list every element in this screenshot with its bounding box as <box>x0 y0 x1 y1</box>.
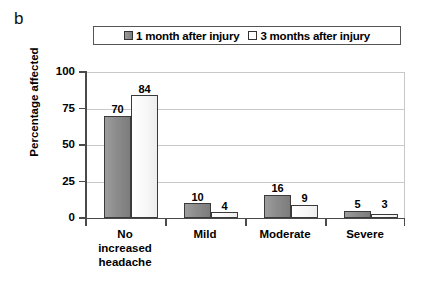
bar-no-increased-headache-3-months <box>131 95 158 218</box>
x-category-label-no-increased-headache: No increased headache <box>85 227 165 269</box>
legend-swatch-icon-white <box>248 31 257 40</box>
x-category-label-moderate: Moderate <box>245 227 325 241</box>
y-tick-50 <box>79 144 85 146</box>
y-tick-label-75: 75 <box>45 102 75 114</box>
legend-label-3-months: 3 months after injury <box>260 30 370 42</box>
y-axis-line <box>85 71 87 219</box>
bar-moderate-3-months <box>291 205 318 218</box>
bar-value-severe-3-months: 3 <box>369 198 400 210</box>
bar-no-increased-headache-1-month <box>104 116 131 218</box>
chart-legend: 1 month after injury 3 months after inju… <box>93 26 401 45</box>
y-tick-label-100: 100 <box>45 65 75 77</box>
y-tick-25 <box>79 181 85 183</box>
y-tick-100 <box>79 71 85 73</box>
y-tick-label-25: 25 <box>45 175 75 187</box>
x-tick-1 <box>165 219 167 226</box>
x-tick-3 <box>325 219 327 226</box>
bar-mild-1-month <box>184 203 211 218</box>
bar-severe-1-month <box>344 211 371 218</box>
y-tick-label-0: 0 <box>45 211 75 223</box>
bar-moderate-1-month <box>264 195 291 218</box>
legend-entry-1-month: 1 month after injury <box>124 30 239 42</box>
bar-value-no-increased-headache-3-months: 84 <box>129 83 160 95</box>
bar-value-moderate-3-months: 9 <box>289 192 320 204</box>
legend-label-1-month: 1 month after injury <box>136 30 239 42</box>
bar-severe-3-months <box>371 214 398 218</box>
y-axis-title: Percentage affected <box>28 27 40 177</box>
x-category-label-severe: Severe <box>325 227 405 241</box>
figure-panel-b: b 1 month after injury 3 months after in… <box>0 0 423 287</box>
plot-right-border <box>404 72 405 218</box>
bar-value-no-increased-headache-1-month: 70 <box>102 103 133 115</box>
legend-entry-3-months: 3 months after injury <box>248 30 370 42</box>
x-tick-0 <box>85 219 87 226</box>
bar-value-mild-3-months: 4 <box>209 200 240 212</box>
bar-mild-3-months <box>211 212 238 218</box>
x-category-label-mild: Mild <box>165 227 245 241</box>
x-tick-2 <box>245 219 247 226</box>
panel-label: b <box>14 10 23 27</box>
y-tick-75 <box>79 108 85 110</box>
legend-swatch-icon-gray <box>124 31 133 40</box>
y-tick-label-50: 50 <box>45 138 75 150</box>
x-tick-4 <box>404 219 406 226</box>
gridline-100 <box>85 72 405 73</box>
